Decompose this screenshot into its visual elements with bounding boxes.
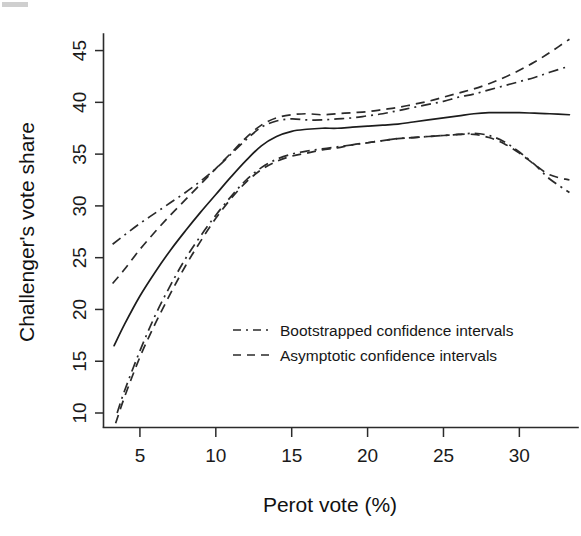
x-tick-label-5: 5	[135, 445, 146, 466]
y-tick-label-15: 15	[70, 351, 91, 372]
y-tick-label-35: 35	[70, 144, 91, 165]
y-tick-label-20: 20	[70, 299, 91, 320]
x-tick-label-20: 20	[357, 445, 378, 466]
regression-plot-svg: 1015202530354045 Challenger's vote share…	[0, 0, 581, 536]
y-tick-label-45: 45	[70, 40, 91, 61]
legend-label-0: Bootstrapped confidence intervals	[280, 322, 514, 339]
y-tick-label-10: 10	[70, 402, 91, 423]
x-tick-label-30: 30	[509, 445, 530, 466]
chart-figure: 1015202530354045 Challenger's vote share…	[0, 0, 581, 536]
x-tick-label-15: 15	[281, 445, 302, 466]
x-tick-label-25: 25	[433, 445, 454, 466]
y-tick-label-25: 25	[70, 247, 91, 268]
y-axis-title: Challenger's vote share	[15, 122, 38, 342]
y-tick-label-40: 40	[70, 92, 91, 113]
x-tick-label-10: 10	[205, 445, 226, 466]
legend-label-1: Asymptotic confidence intervals	[280, 347, 497, 364]
scan-corner-mark-icon	[2, 2, 28, 7]
y-tick-label-30: 30	[70, 195, 91, 216]
x-axis-title: Perot vote (%)	[263, 493, 397, 516]
